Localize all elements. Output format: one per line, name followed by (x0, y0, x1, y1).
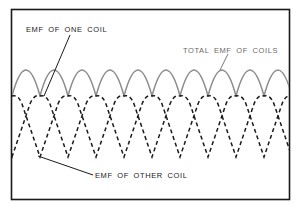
leader-line-one-coil (44, 35, 70, 96)
emf-other-coil-curve (0, 96, 298, 157)
label-emf-one-coil: EMF OF ONE COIL (26, 25, 107, 34)
total-emf-curve (0, 70, 298, 96)
leader-line-other-coil (38, 156, 93, 175)
label-emf-other-coil: EMF OF OTHER COIL (95, 171, 187, 180)
leader-line-total (220, 54, 228, 70)
label-total-emf: TOTAL EMF OF COILS (183, 46, 278, 55)
emf-diagram: EMF OF ONE COIL TOTAL EMF OF COILS EMF O… (0, 0, 298, 210)
